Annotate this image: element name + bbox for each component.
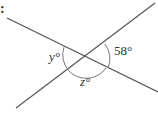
angle-diagram: : y° z° 58° bbox=[0, 0, 158, 126]
angle-y-label: y° bbox=[47, 49, 60, 64]
line-2 bbox=[16, 3, 155, 108]
angle-z-label: z° bbox=[79, 74, 90, 89]
angle-58-arc bbox=[105, 44, 110, 68]
colon-marker: : bbox=[0, 1, 5, 16]
angle-y-arc bbox=[63, 47, 69, 71]
angle-58-label: 58° bbox=[114, 43, 132, 58]
